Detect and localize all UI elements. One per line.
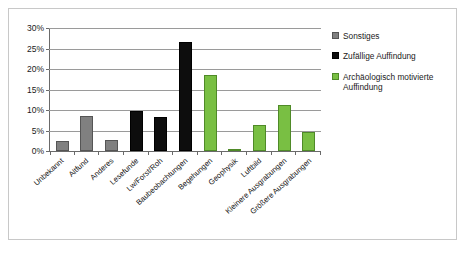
y-axis-tick-label: 15% bbox=[27, 85, 44, 94]
legend-item[interactable]: Archäologisch motivierte Auffindung bbox=[332, 72, 452, 93]
y-axis-tick-label: 30% bbox=[27, 24, 44, 33]
y-axis-tick-label: 0% bbox=[32, 147, 44, 156]
x-axis-labels: UnbekanntAltfundAnderesLesefundeLw/Forst… bbox=[50, 155, 322, 235]
bar-slot bbox=[124, 28, 149, 151]
legend-swatch-icon bbox=[332, 52, 339, 59]
chart-legend: SonstigesZufällige AuffindungArchäologis… bbox=[332, 31, 452, 102]
y-axis-tick-label: 10% bbox=[27, 106, 44, 115]
bar-slot bbox=[272, 28, 297, 151]
y-axis-tick-label: 25% bbox=[27, 44, 44, 53]
legend-item-label: Zufällige Auffindung bbox=[343, 51, 416, 61]
y-axis-tick-mark bbox=[46, 69, 49, 70]
legend-swatch-icon bbox=[332, 32, 339, 39]
legend-item[interactable]: Sonstiges bbox=[332, 31, 452, 41]
bar-slot bbox=[99, 28, 124, 151]
legend-item[interactable]: Zufällige Auffindung bbox=[332, 51, 452, 61]
legend-item-label: Archäologisch motivierte Auffindung bbox=[343, 72, 452, 93]
y-axis-tick-mark bbox=[46, 110, 49, 111]
y-axis-tick-mark bbox=[46, 90, 49, 91]
x-axis-label-slot: Größere Ausgrabungen bbox=[297, 155, 322, 235]
y-axis-tick-mark bbox=[46, 131, 49, 132]
y-axis-tick-label: 20% bbox=[27, 65, 44, 74]
x-axis-tick-label-text: Unbekannt bbox=[33, 157, 65, 187]
y-axis-tick-mark bbox=[46, 28, 49, 29]
chart-container: 0%5%10%15%20%25%30% UnbekanntAltfundAnde… bbox=[8, 8, 457, 240]
y-axis-tick-label: 5% bbox=[32, 126, 44, 135]
legend-swatch-icon bbox=[332, 73, 339, 80]
y-axis-tick-mark bbox=[46, 49, 49, 50]
y-axis-tick-mark bbox=[46, 151, 49, 152]
legend-item-label: Sonstiges bbox=[343, 31, 379, 41]
bar-slot bbox=[50, 28, 75, 151]
